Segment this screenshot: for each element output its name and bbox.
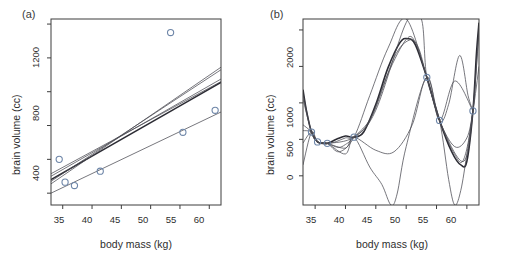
fit-fit-3-linear xyxy=(51,82,221,179)
data-point xyxy=(167,29,173,35)
panel-b-plot xyxy=(256,0,512,260)
plot-frame xyxy=(51,19,221,205)
data-point xyxy=(97,168,103,174)
plot-content xyxy=(51,29,221,193)
data-point xyxy=(56,156,62,162)
data-point xyxy=(71,182,77,188)
fit-fit-6-linear xyxy=(51,112,221,193)
data-point xyxy=(212,107,218,113)
plot-content xyxy=(303,12,479,206)
panel-b: (b) brain volume (cc) body mass (kg) 0 5… xyxy=(256,0,512,260)
panel-a: (a) brain volume (cc) body mass (kg) 400… xyxy=(0,0,256,260)
data-point xyxy=(62,179,68,185)
panel-a-plot xyxy=(0,0,256,260)
plot-frame xyxy=(303,19,479,205)
fit-fit-2-linear xyxy=(51,79,221,176)
fit-fit-5-linear xyxy=(51,67,221,184)
figure-container: (a) brain volume (cc) body mass (kg) 400… xyxy=(0,0,512,260)
